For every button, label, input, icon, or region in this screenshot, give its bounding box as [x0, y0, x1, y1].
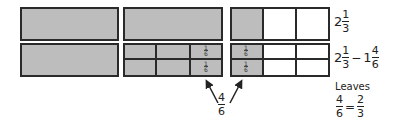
arrows	[0, 0, 393, 122]
result-equation: 46=23	[336, 94, 364, 119]
result-caption: Leaves	[335, 81, 370, 92]
arrow-left-icon	[207, 82, 218, 103]
arrow-fraction-label: 46	[218, 92, 225, 117]
arrow-right-icon	[230, 82, 241, 103]
